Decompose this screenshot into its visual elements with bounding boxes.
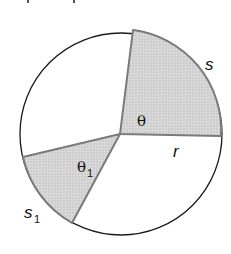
label-theta: θ (137, 112, 146, 130)
cropped-text-fragment (73, 0, 75, 3)
label-theta1: θ (77, 158, 86, 176)
circle-sector-diagram: θ s r θ 1 s 1 (0, 0, 231, 254)
label-theta1-subscript: 1 (87, 167, 93, 179)
label-s1: s (24, 203, 33, 222)
cropped-text-fragment (27, 0, 29, 3)
sector-theta (120, 30, 221, 136)
label-s: s (205, 55, 214, 74)
label-s1-subscript: 1 (34, 213, 40, 225)
